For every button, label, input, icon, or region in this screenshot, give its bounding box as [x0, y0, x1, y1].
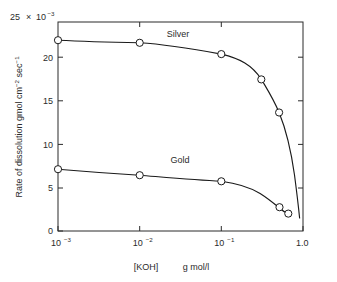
y-tick-marks [58, 57, 63, 231]
silver-markers [54, 37, 282, 117]
y-tick-label-10: 10 [43, 140, 53, 150]
y-scale-note: 25 × 10 −3 [10, 10, 55, 23]
y-axis-title-main: Rate of dissolution gmol cm [14, 87, 24, 198]
x-tick-exp-3: −1 [227, 236, 235, 243]
silver-point-3 [218, 51, 225, 58]
chart-figure: 20 15 10 5 0 10 −3 10 −2 10 −1 1.0 25 × … [0, 0, 337, 282]
gold-point-2 [136, 172, 143, 179]
x-tick-base-2: 10 [133, 238, 143, 248]
scale-note-times: × [26, 12, 31, 22]
scale-note-base: 10 [36, 12, 46, 22]
x-tick-base-3: 10 [214, 238, 224, 248]
y-tick-label-20: 20 [43, 53, 53, 63]
silver-curve [58, 40, 300, 218]
y-axis-title-sup2: −1 [13, 56, 20, 64]
scale-note-exponent: −3 [48, 10, 56, 17]
x-tick-label-1e-3: 10 −3 [51, 236, 72, 249]
x-tick-base-1: 10 [51, 238, 61, 248]
gold-point-1 [54, 166, 61, 173]
plot-frame [58, 22, 303, 231]
x-tick-label-1: 1.0 [296, 238, 309, 248]
gold-point-3 [218, 178, 225, 185]
chart-canvas: 20 15 10 5 0 10 −3 10 −2 10 −1 1.0 25 × … [0, 0, 337, 282]
y-tick-label-15: 15 [43, 96, 53, 106]
y-tick-marks-right [298, 57, 303, 188]
y-axis-title: Rate of dissolution gmol cm−2 sec−1 [13, 56, 24, 198]
silver-point-1 [54, 37, 61, 44]
x-tick-marks-top [140, 22, 222, 27]
x-axis-title-left: [KOH] [134, 262, 159, 272]
y-tick-label-0: 0 [48, 226, 53, 236]
x-tick-marks [58, 226, 303, 231]
svg-text:Rate of dissolution gmol cm−2: Rate of dissolution gmol cm−2 sec−1 [13, 56, 24, 198]
x-tick-base-4: 1.0 [296, 238, 309, 248]
silver-point-2 [136, 39, 143, 46]
x-tick-label-1e-2: 10 −2 [133, 236, 154, 249]
series-label-silver: Silver [167, 29, 190, 39]
silver-point-5 [276, 109, 283, 116]
x-axis-title-right: g mol/l [183, 262, 210, 272]
gold-point-5 [285, 210, 292, 217]
silver-point-4 [258, 76, 265, 83]
gold-curve [58, 169, 287, 213]
x-tick-label-1e-1: 10 −1 [214, 236, 235, 249]
series-label-gold: Gold [170, 155, 189, 165]
x-tick-exp-1: −3 [64, 236, 72, 243]
x-axis-title: [KOH] g mol/l [134, 262, 210, 272]
y-tick-label-5: 5 [48, 183, 53, 193]
scale-note-value: 25 [10, 12, 20, 22]
gold-point-4 [276, 204, 283, 211]
y-axis-title-mid: sec [14, 63, 24, 80]
x-tick-exp-2: −2 [146, 236, 154, 243]
